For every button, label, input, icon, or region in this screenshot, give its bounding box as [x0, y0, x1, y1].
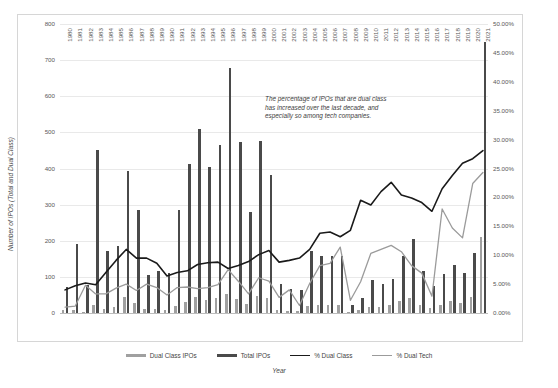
y-tick-label-right: 40.00% [493, 79, 514, 85]
chart-legend: Dual Class IPOsTotal IPOs% Dual Class% D… [0, 352, 558, 359]
legend-swatch [290, 355, 310, 357]
x-tick-label: 1987 [139, 28, 145, 42]
x-tick-label: 1998 [251, 28, 257, 42]
annotation-text: The percentage of IPOs that are dual cla… [265, 95, 387, 121]
legend-swatch [372, 355, 392, 357]
x-tick-label: 2009 [363, 28, 369, 42]
x-tick-label: 2010 [373, 28, 379, 42]
y-tick-label-left: 200 [45, 238, 55, 244]
y-tick-label-right: 5.00% [493, 281, 511, 287]
x-tick-label: 1999 [261, 28, 267, 42]
x-tick-label: 2015 [424, 28, 430, 42]
legend-item[interactable]: Dual Class IPOs [126, 352, 197, 359]
x-axis-title: Year [0, 367, 558, 374]
x-tick-label: 2017 [444, 28, 450, 42]
line-dual-class [65, 151, 483, 290]
y-tick-label-right: 0.00% [493, 310, 511, 316]
legend-swatch [217, 354, 237, 357]
y-tick-label-left: 800 [45, 21, 55, 27]
x-tick-label: 2000 [271, 28, 277, 42]
x-tick-label: 1986 [128, 28, 134, 42]
x-tick-label: 1985 [118, 28, 124, 42]
y-tick-label-left: 500 [45, 129, 55, 135]
x-tick-label: 1994 [210, 28, 216, 42]
x-tick-label: 1981 [77, 28, 83, 42]
x-tick-label: 1995 [220, 28, 226, 42]
x-tick-label: 2006 [332, 28, 338, 42]
y-axis-left-title: Number of IPOs (Total and Dual Class) [7, 137, 14, 251]
x-tick-label: 2021 [485, 28, 491, 42]
x-tick-label: 1990 [169, 28, 175, 42]
x-tick-label: 2005 [322, 28, 328, 42]
x-tick-label: 2011 [383, 28, 389, 41]
gridline [60, 313, 488, 314]
x-tick-label: 2018 [455, 28, 461, 42]
x-tick-label: 2002 [291, 28, 297, 42]
x-tick-label: 1989 [159, 28, 165, 42]
x-tick-label: 2004 [312, 28, 318, 42]
x-tick-label: 1983 [98, 28, 104, 42]
x-tick-label: 1991 [179, 28, 185, 42]
plot-area: 0100200300400500600700800 0.00%5.00%10.0… [60, 24, 488, 313]
y-tick-label-left: 300 [45, 202, 55, 208]
y-tick-label-right: 20.00% [493, 194, 514, 200]
y-tick-label-left: 100 [45, 274, 55, 280]
x-tick-label: 2014 [414, 28, 420, 42]
legend-label: Total IPOs [241, 352, 270, 359]
legend-label: % Dual Tech [396, 352, 432, 359]
legend-swatch [126, 354, 146, 357]
chart-figure: Number of IPOs (Total and Dual Class) % … [0, 0, 558, 388]
x-tick-label: 1993 [200, 28, 206, 42]
x-tick-label: 2001 [281, 28, 287, 42]
x-tick-label: 1997 [241, 28, 247, 42]
y-tick-label-right: 10.00% [493, 252, 514, 258]
legend-label: % Dual Class [314, 352, 352, 359]
y-tick-label-left: 0 [52, 310, 55, 316]
x-tick-label: 2016 [434, 28, 440, 42]
legend-item[interactable]: Total IPOs [217, 352, 270, 359]
x-tick-label: 1984 [108, 28, 114, 42]
x-tick-label: 1988 [149, 28, 155, 42]
y-tick-label-left: 700 [45, 57, 55, 63]
x-tick-label: 2019 [465, 28, 471, 42]
y-tick-label-right: 25.00% [493, 166, 514, 172]
x-tick-label: 2013 [404, 28, 410, 42]
x-tick-label: 2012 [393, 28, 399, 42]
x-tick-label: 2003 [302, 28, 308, 42]
x-tick-label: 1982 [88, 28, 94, 42]
line-group [60, 24, 488, 313]
legend-label: Dual Class IPOs [150, 352, 197, 359]
line-dual-tech [65, 173, 483, 308]
legend-item[interactable]: % Dual Class [290, 352, 352, 359]
y-tick-label-right: 15.00% [493, 223, 514, 229]
x-tick-label: 2007 [342, 28, 348, 42]
y-tick-label-right: 35.00% [493, 108, 514, 114]
y-tick-label-right: 30.00% [493, 137, 514, 143]
x-tick-label: 2008 [353, 28, 359, 42]
y-tick-label-left: 600 [45, 93, 55, 99]
legend-item[interactable]: % Dual Tech [372, 352, 432, 359]
x-tick-label: 2020 [475, 28, 481, 42]
y-tick-label-right: 45.00% [493, 50, 514, 56]
y-tick-label-right: 50.00% [493, 21, 514, 27]
y-tick-label-left: 400 [45, 166, 55, 172]
x-tick-label: 1980 [67, 28, 73, 42]
x-tick-label: 1996 [230, 28, 236, 42]
x-tick-label: 1992 [190, 28, 196, 42]
